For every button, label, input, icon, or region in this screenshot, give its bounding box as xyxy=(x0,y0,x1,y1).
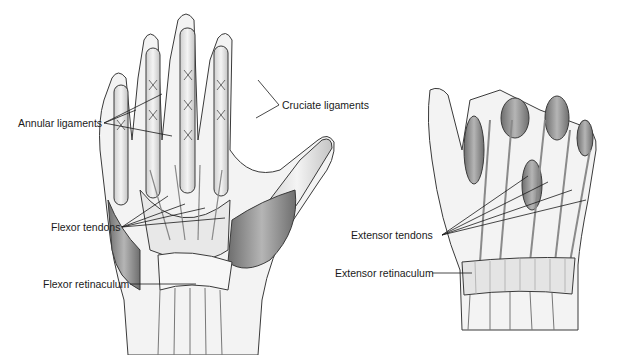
label-extensor-retinaculum: Extensor retinaculum xyxy=(335,267,434,279)
label-flexor-tendons: Flexor tendons xyxy=(51,221,120,233)
label-annular-ligaments: Annular ligaments xyxy=(18,117,102,129)
anatomy-figure: Annular ligaments Cruciate ligaments Fle… xyxy=(0,0,617,355)
label-extensor-tendons: Extensor tendons xyxy=(351,229,433,241)
label-cruciate-ligaments: Cruciate ligaments xyxy=(282,99,369,111)
palmar-hand xyxy=(100,14,335,355)
dorsal-hand xyxy=(428,88,596,330)
hand-illustrations xyxy=(0,0,617,355)
label-flexor-retinaculum: Flexor retinaculum xyxy=(43,278,129,290)
